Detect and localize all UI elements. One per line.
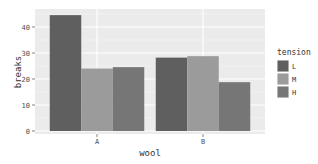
bar-chart: 010203040 AB wool breaks tension LMH	[0, 0, 318, 164]
y-axis: 010203040	[22, 24, 35, 136]
legend-key-M	[278, 74, 289, 85]
legend-key-H	[278, 87, 289, 98]
bar-B-H	[219, 82, 251, 131]
bar-A-L	[50, 15, 82, 131]
x-tick-label: B	[201, 138, 205, 146]
x-tick-label: A	[95, 138, 100, 146]
bar-B-M	[187, 56, 219, 131]
legend-label-L: L	[292, 63, 296, 71]
legend-label-H: H	[292, 89, 296, 97]
legend-key-L	[278, 61, 289, 72]
x-axis: AB	[95, 134, 205, 146]
legend-label-M: M	[292, 76, 296, 84]
legend: tension LMH	[277, 48, 311, 98]
y-tick-label: 0	[26, 128, 30, 136]
bar-A-M	[81, 69, 113, 131]
bar-B-L	[156, 58, 188, 131]
x-axis-title: wool	[139, 148, 161, 158]
y-tick-label: 40	[22, 24, 30, 32]
bar-A-H	[113, 67, 145, 131]
y-tick-label: 10	[22, 102, 30, 110]
legend-title: tension	[277, 48, 311, 57]
y-axis-title: breaks	[13, 56, 23, 89]
